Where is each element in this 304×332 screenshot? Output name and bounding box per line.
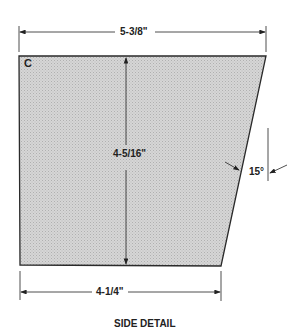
part-label: C — [21, 57, 35, 69]
top-width-label: 5-3/8" — [117, 26, 151, 37]
bottom-width-label: 4-1/4" — [93, 286, 127, 297]
panel-shape — [19, 56, 266, 266]
angle-label: 15° — [248, 166, 265, 177]
caption: SIDE DETAIL — [111, 318, 178, 329]
height-label: 4-5/16" — [110, 148, 149, 159]
angle-arrow-right — [270, 165, 287, 173]
